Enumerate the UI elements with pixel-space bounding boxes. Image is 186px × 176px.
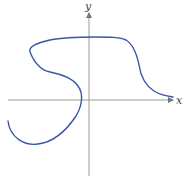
- y-axis-label: y: [84, 0, 92, 13]
- graph-figure: x y: [0, 0, 186, 176]
- curve: [8, 37, 173, 144]
- x-axis-label: x: [176, 94, 183, 107]
